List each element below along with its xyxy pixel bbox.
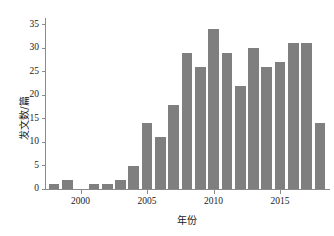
bar xyxy=(62,180,73,189)
x-axis-label: 年份 xyxy=(46,212,328,227)
x-tick-label: 2005 xyxy=(138,195,157,208)
x-tick-mark xyxy=(81,190,82,194)
bar-chart: 05101520253035 2000200520102015 发文数/篇 年份 xyxy=(0,0,334,236)
bar xyxy=(155,137,166,189)
bar xyxy=(102,184,113,189)
bar xyxy=(142,123,153,189)
x-tick-mark xyxy=(214,190,215,194)
x-tick-mark xyxy=(147,190,148,194)
bar xyxy=(235,86,246,189)
bar xyxy=(222,53,233,189)
bar xyxy=(195,67,206,189)
y-tick-label: 30 xyxy=(30,41,40,54)
bar xyxy=(182,53,193,189)
bar xyxy=(128,166,139,189)
y-axis-label: 发文数/篇 xyxy=(16,96,31,139)
y-tick-label: 5 xyxy=(34,159,39,172)
bar xyxy=(288,43,299,189)
plot-area xyxy=(46,20,328,189)
bar xyxy=(315,123,326,189)
y-tick-label: 35 xyxy=(30,18,40,31)
bar xyxy=(89,184,100,189)
bar xyxy=(301,43,312,189)
x-tick-label: 2015 xyxy=(271,195,290,208)
bar xyxy=(275,62,286,189)
bar xyxy=(49,184,60,189)
bar xyxy=(115,180,126,189)
bar xyxy=(248,48,259,189)
y-tick-label: 0 xyxy=(34,182,39,195)
bar xyxy=(208,29,219,189)
bar xyxy=(168,105,179,190)
x-tick-label: 2000 xyxy=(71,195,90,208)
x-tick-mark xyxy=(280,190,281,194)
bar xyxy=(261,67,272,189)
y-tick-label: 25 xyxy=(30,65,40,78)
x-axis-line xyxy=(45,189,330,190)
x-tick-label: 2010 xyxy=(204,195,223,208)
